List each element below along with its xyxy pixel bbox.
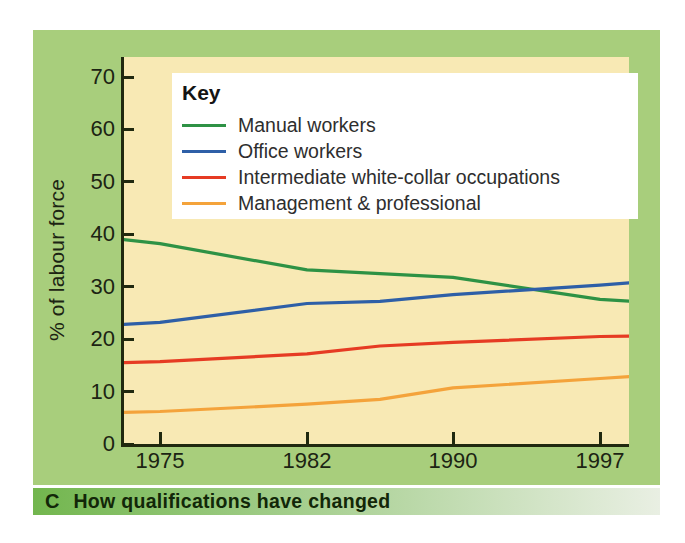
x-tick-mark — [599, 432, 602, 444]
series-line — [124, 240, 629, 302]
y-tick-label: 20 — [33, 326, 115, 352]
y-tick-mark — [124, 233, 134, 236]
y-tick-mark — [124, 338, 134, 341]
legend-rows: Manual workersOffice workersIntermediate… — [182, 112, 638, 216]
legend-line-swatch — [182, 176, 226, 179]
y-tick-mark — [124, 390, 134, 393]
caption-text: How qualifications have changed — [73, 490, 390, 513]
legend-label: Office workers — [238, 140, 362, 163]
x-tick-mark — [452, 432, 455, 444]
x-tick-label: 1975 — [115, 448, 205, 474]
legend-line-swatch — [182, 150, 226, 153]
legend-item: Manual workers — [182, 112, 638, 138]
y-tick-mark — [124, 76, 134, 79]
y-tick-mark — [124, 443, 134, 446]
x-tick-label: 1990 — [408, 448, 498, 474]
series-line — [124, 376, 629, 412]
x-tick-mark — [159, 432, 162, 444]
legend-item: Intermediate white-collar occupations — [182, 164, 638, 190]
legend-item: Office workers — [182, 138, 638, 164]
caption-bar: C How qualifications have changed — [33, 488, 660, 515]
y-tick-label: 30 — [33, 274, 115, 300]
legend-label: Manual workers — [238, 114, 376, 137]
legend-label: Intermediate white-collar occupations — [238, 166, 560, 189]
y-tick-mark — [124, 285, 134, 288]
y-tick-label: 10 — [33, 379, 115, 405]
y-tick-label: 50 — [33, 169, 115, 195]
legend-item: Management & professional — [182, 190, 638, 216]
y-tick-label: 70 — [33, 64, 115, 90]
x-tick-label: 1997 — [555, 448, 645, 474]
x-tick-mark — [306, 432, 309, 444]
legend-label: Management & professional — [238, 192, 481, 215]
chart-card: % of labour force Key Manual workersOffi… — [33, 30, 660, 485]
y-tick-label: 60 — [33, 116, 115, 142]
legend-line-swatch — [182, 124, 226, 127]
y-tick-label: 0 — [33, 431, 115, 457]
y-axis-title: % of labour force — [45, 179, 69, 341]
x-tick-label: 1982 — [262, 448, 352, 474]
legend-box: Key Manual workersOffice workersIntermed… — [172, 73, 638, 219]
caption-letter: C — [45, 490, 59, 513]
y-tick-mark — [124, 180, 134, 183]
plot-area: Key Manual workersOffice workersIntermed… — [121, 57, 629, 447]
series-line — [124, 283, 629, 325]
legend-title: Key — [182, 79, 638, 107]
legend-line-swatch — [182, 202, 226, 205]
y-tick-label: 40 — [33, 221, 115, 247]
series-line — [124, 336, 629, 363]
y-tick-mark — [124, 128, 134, 131]
